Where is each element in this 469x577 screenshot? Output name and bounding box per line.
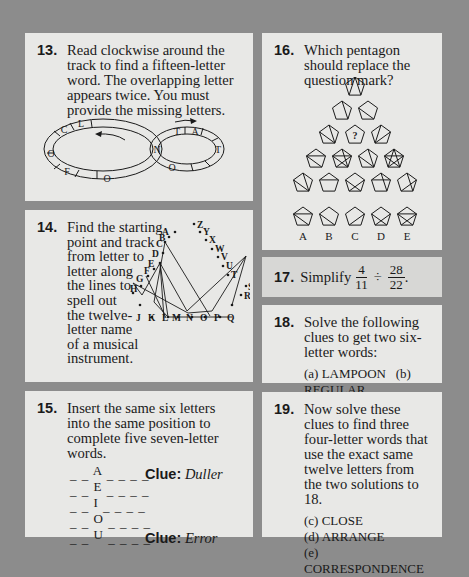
track-letter: F bbox=[144, 266, 150, 276]
blank: _ _ bbox=[70, 467, 89, 482]
blank: _ _ bbox=[70, 515, 89, 530]
puzzle-14-panel: 14. Find the starting point and track fr… bbox=[25, 210, 253, 382]
clue-list: (c) CLOSE (d) ARRANGE (e) CORRESPONDENCE bbox=[304, 513, 430, 577]
puzzle-18-question: 18. Solve the following clues to get two… bbox=[274, 315, 430, 398]
track-letter: O bbox=[103, 173, 110, 184]
puzzle-15-panel: 15. Insert the same six letters into the… bbox=[25, 391, 253, 537]
puzzle-number: 19. bbox=[274, 402, 294, 417]
puzzle-number: 14. bbox=[37, 220, 57, 235]
puzzle-13-text: Read clockwise around the track to find … bbox=[67, 43, 241, 118]
puzzle-15-text: Insert the same six letters into the sam… bbox=[67, 401, 241, 461]
blank: _ _ _ _ bbox=[103, 499, 146, 514]
vowel: E bbox=[94, 479, 103, 494]
track-letter: T bbox=[231, 270, 238, 280]
track-letter: H bbox=[130, 284, 138, 294]
puzzle-19-question: 19. Now solve these clues to find three … bbox=[274, 402, 430, 577]
clue-item: (e) CORRESPONDENCE bbox=[304, 545, 430, 577]
track-letter: O bbox=[200, 313, 207, 323]
track-letter: G bbox=[136, 274, 144, 284]
vowel: A bbox=[93, 463, 103, 478]
option-label-e[interactable]: E bbox=[404, 230, 411, 242]
blank: _ _ bbox=[70, 531, 89, 546]
option-pentagon-a bbox=[294, 207, 313, 225]
question-mark: ? bbox=[353, 130, 358, 141]
blank: _ _ bbox=[70, 499, 89, 514]
track-letter: F bbox=[64, 166, 70, 177]
puzzle-17-text: Simplify bbox=[300, 269, 351, 286]
track-letter: R bbox=[244, 291, 250, 301]
option-label-d[interactable]: D bbox=[377, 230, 385, 242]
clue-label: Clue: bbox=[145, 530, 181, 546]
track-letter: C bbox=[156, 239, 163, 249]
track-letter: O bbox=[168, 162, 175, 173]
clue-label: Clue: bbox=[145, 466, 181, 482]
track-letter: D bbox=[152, 249, 159, 259]
puzzle-number: 13. bbox=[37, 43, 57, 58]
puzzle-19-text: Now solve these clues to find three four… bbox=[304, 402, 430, 507]
track-letter: W bbox=[215, 244, 225, 254]
puzzle-14-text-line: instrument. bbox=[67, 351, 241, 366]
option-label-c[interactable]: C bbox=[351, 230, 358, 242]
track-letter: U bbox=[226, 261, 233, 271]
fraction-2: 28 22 bbox=[388, 263, 405, 292]
clue-text: Duller bbox=[185, 466, 223, 482]
track-letter: A bbox=[191, 126, 199, 137]
fraction-1: 4 11 bbox=[355, 263, 368, 292]
track-letter: J bbox=[136, 313, 141, 323]
puzzle-15-question: 15. Insert the same six letters into the… bbox=[37, 401, 241, 461]
track-letter: C bbox=[61, 124, 68, 135]
puzzle-13-panel: 13. Read clockwise around the track to f… bbox=[25, 33, 253, 201]
figure-eight-track-diagram: O C L O F N T A T O bbox=[25, 113, 253, 193]
period: . bbox=[405, 269, 409, 286]
option-label-a[interactable]: A bbox=[299, 230, 307, 242]
option-pentagon-d bbox=[372, 207, 391, 225]
option-pentagon-c bbox=[346, 207, 365, 225]
pentagon-pyramid-diagram: ? A B C D E bbox=[262, 77, 442, 247]
fraction-denominator: 22 bbox=[390, 278, 403, 292]
puzzle-number: 16. bbox=[274, 43, 294, 58]
word-blanks-list: _ _ A _ _ _ _ Clue: Duller _ _ E _ _ _ _… bbox=[70, 467, 241, 547]
puzzle-19-panel: 19. Now solve these clues to find three … bbox=[262, 392, 442, 537]
track-letter: M bbox=[172, 313, 181, 323]
track-letter: Q bbox=[227, 313, 234, 323]
puzzle-number: 17. bbox=[274, 269, 294, 285]
option-pentagon-e bbox=[398, 207, 417, 225]
track-letter: L bbox=[78, 118, 84, 129]
clue-item: (d) ARRANGE bbox=[304, 529, 430, 545]
track-letter: T bbox=[215, 144, 221, 155]
blank: _ _ _ _ bbox=[108, 515, 151, 530]
blank: _ _ _ _ bbox=[107, 483, 150, 498]
puzzle-17-panel: 17. Simplify 4 11 ÷ 28 22 . bbox=[262, 257, 442, 297]
puzzle-16-panel: 16. Which pentagon should replace the qu… bbox=[262, 33, 442, 250]
puzzle-18-text: Solve the following clues to get two six… bbox=[304, 315, 430, 360]
track-letter: P bbox=[214, 313, 220, 323]
option-pentagon-b bbox=[320, 207, 339, 225]
track-letter: L bbox=[162, 313, 168, 323]
divide-operator: ÷ bbox=[374, 269, 382, 286]
track-letter: S bbox=[248, 282, 250, 292]
puzzle-13-question: 13. Read clockwise around the track to f… bbox=[37, 43, 241, 118]
track-letter: N bbox=[186, 313, 193, 323]
vowel: I bbox=[94, 495, 99, 510]
track-letter: X bbox=[209, 235, 216, 245]
fraction-denominator: 11 bbox=[355, 278, 368, 292]
track-letter: T bbox=[174, 126, 180, 137]
vowel: U bbox=[94, 527, 104, 542]
letter-track-diagram: A B C D E F G H I J K L M N O P Q R S T … bbox=[130, 220, 250, 340]
track-letter: O bbox=[47, 148, 54, 159]
option-label-b[interactable]: B bbox=[325, 230, 332, 242]
track-letter: Z bbox=[197, 220, 203, 230]
clue-text: Error bbox=[185, 530, 218, 546]
puzzle-18-panel: 18. Solve the following clues to get two… bbox=[262, 305, 442, 383]
word-blank-row: _ _ U _ _ _ _ Clue: Error bbox=[70, 531, 241, 547]
puzzle-number: 18. bbox=[274, 315, 294, 330]
clue-item: (a) LAMPOON bbox=[304, 366, 386, 381]
clue-item: (c) CLOSE bbox=[304, 513, 430, 529]
track-letter: K bbox=[148, 313, 156, 323]
track-overlap-letter: N bbox=[153, 144, 160, 155]
fraction-numerator: 28 bbox=[388, 263, 405, 278]
puzzle-17-question: 17. Simplify 4 11 ÷ 28 22 . bbox=[274, 257, 430, 297]
track-letter: Y bbox=[203, 227, 210, 237]
blank: _ _ bbox=[70, 483, 89, 498]
puzzle-number: 15. bbox=[37, 401, 57, 416]
